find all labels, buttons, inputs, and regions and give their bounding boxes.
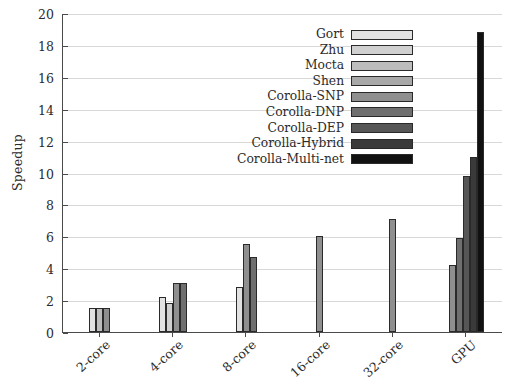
legend-label: Corolla-DEP	[268, 122, 345, 135]
legend-swatch	[351, 107, 413, 117]
bar	[250, 257, 257, 332]
legend-item-corolla-dep: Corolla-DEP	[237, 122, 413, 135]
bar	[103, 308, 110, 332]
bar	[389, 219, 396, 332]
legend-item-corolla-dnp: Corolla-DNP	[237, 106, 413, 119]
legend-label: Zhu	[320, 44, 344, 57]
legend-item-corolla-hybrid: Corolla-Hybrid	[237, 137, 413, 150]
x-tick-label-16-core: 16-core	[287, 337, 333, 380]
bar-group-4-core	[136, 14, 209, 332]
x-tick-mark	[465, 333, 466, 337]
legend-swatch	[351, 92, 413, 102]
bar	[456, 238, 463, 332]
legend-label: Shen	[313, 75, 345, 88]
bar	[236, 287, 243, 332]
x-tick-mark	[172, 333, 173, 337]
x-tick-label-2-core: 2-core	[73, 337, 113, 375]
y-tick-label: 12	[0, 134, 54, 149]
bar	[470, 157, 477, 332]
legend-label: Mocta	[305, 59, 344, 72]
legend-item-zhu: Zhu	[237, 44, 413, 57]
y-tick-label: 8	[0, 198, 54, 213]
x-tick-mark	[319, 333, 320, 337]
y-axis-label: Speedup	[10, 118, 25, 208]
legend-label: Corolla-Hybrid	[251, 137, 344, 150]
legend-swatch	[351, 123, 413, 133]
legend-item-shen: Shen	[237, 75, 413, 88]
y-tick-label: 20	[0, 7, 54, 22]
legend-item-corolla-snp: Corolla-SNP	[237, 90, 413, 103]
bar-group-2-core	[63, 14, 136, 332]
plot-area: GortZhuMoctaShenCorolla-SNPCorolla-DNPCo…	[62, 14, 502, 333]
legend-item-corolla-multi-net: Corolla-Multi-net	[237, 153, 413, 166]
legend-label: Corolla-Multi-net	[237, 153, 344, 166]
bar	[96, 308, 103, 332]
x-tick-label-4-core: 4-core	[146, 337, 186, 375]
bar	[316, 236, 323, 332]
bar	[477, 32, 484, 332]
bar	[180, 283, 187, 332]
legend-swatch	[351, 30, 413, 40]
legend-item-mocta: Mocta	[237, 59, 413, 72]
legend-swatch	[351, 139, 413, 149]
legend-swatch	[351, 76, 413, 86]
y-tick-mark	[63, 333, 68, 334]
y-tick-label: 6	[0, 230, 54, 245]
y-tick-label: 18	[0, 38, 54, 53]
y-tick-label: 4	[0, 262, 54, 277]
legend: GortZhuMoctaShenCorolla-SNPCorolla-DNPCo…	[233, 26, 417, 169]
legend-swatch	[351, 45, 413, 55]
y-tick-label: 0	[0, 326, 54, 341]
x-tick-mark	[99, 333, 100, 337]
bar	[449, 265, 456, 332]
bar	[166, 303, 173, 332]
bar	[463, 176, 470, 332]
legend-swatch	[351, 61, 413, 71]
legend-item-gort: Gort	[237, 28, 413, 41]
y-tick-label: 14	[0, 102, 54, 117]
y-tick-label: 2	[0, 294, 54, 309]
bar	[173, 283, 180, 332]
legend-swatch	[351, 154, 413, 164]
legend-label: Corolla-SNP	[267, 90, 344, 103]
legend-label: Gort	[316, 28, 344, 41]
y-tick-label: 10	[0, 166, 54, 181]
x-tick-label-32-core: 32-core	[360, 337, 406, 380]
legend-label: Corolla-DNP	[266, 106, 344, 119]
y-tick-label: 16	[0, 70, 54, 85]
x-tick-mark	[392, 333, 393, 337]
x-tick-label-8-core: 8-core	[220, 337, 260, 375]
x-tick-label-GPU: GPU	[448, 337, 479, 367]
bar	[243, 244, 250, 332]
bar-group-GPU	[430, 14, 503, 332]
bar	[159, 297, 166, 332]
bar	[89, 308, 96, 332]
x-tick-mark	[245, 333, 246, 337]
